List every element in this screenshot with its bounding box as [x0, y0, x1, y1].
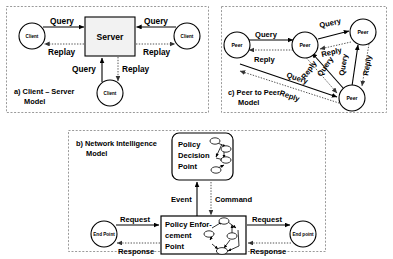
peer-top-right-label: Peer: [357, 29, 368, 35]
pep-line3: Point: [165, 242, 184, 251]
edge-label-left-replay: Replay: [48, 47, 76, 57]
panel-a-caption-line2: Model: [24, 97, 45, 106]
edge-label-right-request: Request: [252, 215, 282, 224]
client-right-label: Client: [181, 34, 194, 39]
edge-label-left-center-query: Query: [255, 30, 278, 39]
panel-b-caption-line1: b) Network Intelligence: [76, 139, 157, 148]
edge-label-right-replay: Replay: [143, 47, 171, 57]
edge-label-command: Command: [215, 195, 252, 204]
edge-label-center-left-reply: Reply: [254, 55, 275, 64]
endpoint-left-label: End Point: [93, 232, 115, 237]
pep-line2: cement: [165, 231, 192, 240]
edge-label-left-query: Query: [50, 16, 74, 26]
server-label: Server: [97, 32, 124, 42]
pep-line1: Policy Enfor-: [165, 220, 212, 229]
edge-label-left-request: Request: [120, 215, 150, 224]
peer-left-label: Peer: [231, 42, 242, 48]
panel-a-caption-line1: a) Client – Server: [14, 87, 75, 96]
pdp-line1: Policy: [178, 140, 201, 149]
peer-center-label: Peer: [299, 42, 310, 48]
pdp-line2: Decision: [178, 151, 210, 160]
network-models-figure: Server Client Query Replay Client Query …: [0, 0, 393, 259]
edge-label-right-query: Query: [144, 16, 168, 26]
edge-label-event: Event: [171, 195, 192, 204]
endpoint-right-label: End point: [292, 232, 314, 237]
edge-label-bottom-query: Query: [72, 64, 96, 74]
panel-c-caption-line1: c) Peer to Peer: [228, 88, 280, 97]
edge-label-bottom-replay: Replay: [122, 64, 150, 74]
client-left-label: Client: [26, 34, 39, 39]
client-bottom-label: Client: [104, 91, 117, 96]
peer-bottom-right-label: Peer: [346, 95, 357, 101]
panel-c-caption-line2: Model: [238, 98, 259, 107]
edge-label-left-response: Response: [118, 247, 154, 256]
panel-b-caption-line2: Model: [86, 149, 107, 158]
pdp-line3: Point: [178, 162, 197, 171]
edge-label-right-response: Response: [250, 247, 286, 256]
